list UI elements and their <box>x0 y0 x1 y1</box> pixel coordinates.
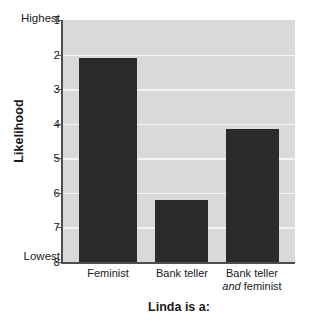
y-axis-title-label: Likelihood <box>12 99 26 163</box>
y-tick-label-2: 2 <box>26 49 60 61</box>
bar-chart: Likelihood Highest Lowest 1 2 3 4 5 6 7 … <box>0 0 312 320</box>
y-tick-label-5: 5 <box>26 152 60 164</box>
conjunction-italic: and <box>222 280 240 292</box>
x-tick-label-bank-teller-and-feminist: Bank teller and feminist <box>204 267 300 293</box>
y-tick-label-6: 6 <box>26 187 60 199</box>
bar-bank-teller-and-feminist[interactable] <box>226 129 279 262</box>
y-tick-label-1: 1 <box>26 14 60 26</box>
y-tick-label-4: 4 <box>26 118 60 130</box>
y-tick-label-3: 3 <box>26 83 60 95</box>
plot-area <box>63 20 295 262</box>
bar-bank-teller[interactable] <box>155 200 208 262</box>
x-tick-label-line2: and feminist <box>204 280 300 293</box>
x-axis-tick-labels: Feminist Bank teller Bank teller and fem… <box>63 267 295 301</box>
y-tick-label-7: 7 <box>26 221 60 233</box>
x-axis-title: Linda is a: <box>63 300 295 314</box>
bar-feminist[interactable] <box>79 58 137 262</box>
y-axis-tick-labels: Highest Lowest 1 2 3 4 5 6 7 8 <box>26 0 60 320</box>
gridline-2 <box>63 55 295 57</box>
x-axis-line <box>61 262 295 264</box>
conjunction-rest: feminist <box>241 280 282 292</box>
y-tick-label-8: 8 <box>26 256 60 268</box>
